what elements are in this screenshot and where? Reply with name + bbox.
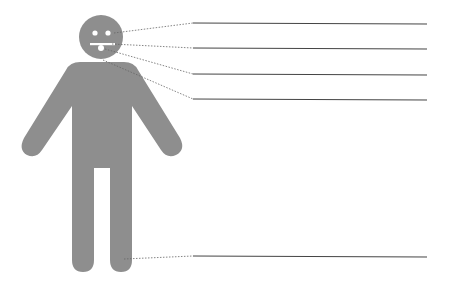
label-line-neck <box>193 99 427 100</box>
torso-arms-legs <box>22 62 183 272</box>
head <box>79 15 123 59</box>
right-eye <box>105 30 110 35</box>
label-line-foot <box>193 256 427 257</box>
label-line-mouth <box>193 48 427 49</box>
left-eye <box>92 30 97 35</box>
label-line-tongue <box>193 74 427 75</box>
mouth <box>90 43 115 45</box>
tongue <box>98 45 104 51</box>
label-lines <box>193 23 427 257</box>
body-figure-svg <box>0 0 449 284</box>
human-figure <box>22 15 183 272</box>
label-line-eye <box>193 23 427 24</box>
